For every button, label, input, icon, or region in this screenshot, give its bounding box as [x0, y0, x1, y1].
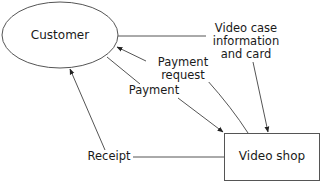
payment-flow-line-b	[178, 98, 223, 132]
payment-flow-label: Payment	[126, 84, 182, 97]
video-case-flow-line-b	[253, 62, 268, 132]
payment-request-flow-line-b	[117, 47, 148, 62]
customer-node-label: Customer	[18, 28, 102, 42]
context-diagram: Customer Video shop Video case informati…	[0, 0, 326, 190]
payment-flow-line-a	[107, 57, 140, 84]
receipt-flow-line-b	[70, 69, 105, 150]
receipt-flow-label: Receipt	[86, 150, 132, 163]
payment-request-label-line-2: request	[146, 69, 220, 82]
video-shop-node-label: Video shop	[226, 149, 318, 163]
payment-request-flow-label: Payment request	[146, 56, 220, 82]
